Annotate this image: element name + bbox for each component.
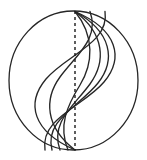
geometric-figure: [0, 0, 147, 160]
figure-container: [0, 0, 147, 160]
figure-background: [0, 0, 147, 160]
